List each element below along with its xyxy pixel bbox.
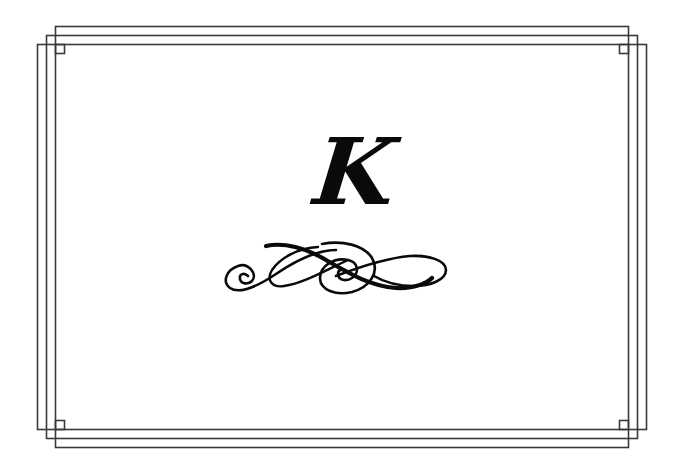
flourish-main-swash: [266, 245, 432, 288]
monogram-letter: K: [295, 122, 416, 222]
corner-square-bottom-left: [56, 421, 65, 430]
corner-square-top-right: [620, 45, 629, 54]
corner-square-bottom-right: [620, 421, 629, 430]
flourish-divider-icon: [214, 228, 454, 300]
corner-square-top-left: [56, 45, 65, 54]
